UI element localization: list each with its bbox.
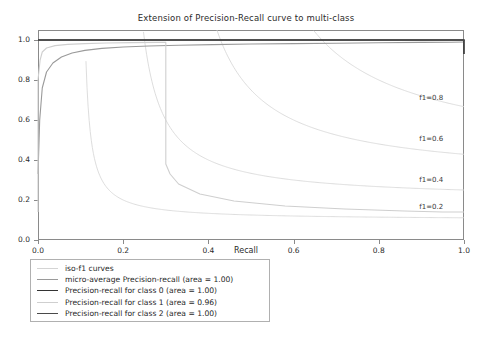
x-tick-label: 0.2 — [103, 246, 143, 255]
iso-f1-label: f1=0.6 — [419, 135, 443, 143]
legend-line-swatch — [37, 279, 58, 280]
x-tick-mark — [123, 240, 124, 244]
x-tick-label: 1.0 — [444, 246, 484, 255]
y-tick-label: 1.0 — [4, 35, 30, 44]
plot-curves — [38, 30, 464, 240]
legend-line-swatch — [37, 268, 58, 269]
legend-item[interactable]: Precision-recall for class 2 (area = 1.0… — [36, 308, 264, 319]
x-tick-mark — [208, 240, 209, 244]
iso-f1-curve — [86, 61, 464, 218]
iso-f1-label: f1=0.4 — [419, 176, 443, 184]
plot-area — [38, 30, 464, 240]
legend-label: Precision-recall for class 2 (area = 1.0… — [65, 308, 217, 319]
x-tick-mark — [38, 240, 39, 244]
x-tick-label: 0.6 — [274, 246, 314, 255]
page-title: Extension of Precision-Recall curve to m… — [0, 13, 492, 23]
series-curve — [38, 40, 464, 41]
iso-f1-curve — [143, 32, 464, 190]
legend-line-swatch — [37, 302, 58, 303]
matplotlib-figure: Extension of Precision-Recall curve to m… — [0, 0, 492, 340]
legend-label: micro-average Precision-recall (area = 1… — [65, 274, 233, 285]
legend-item[interactable]: micro-average Precision-recall (area = 1… — [36, 274, 264, 285]
legend-label: Precision-recall for class 0 (area = 1.0… — [65, 285, 217, 296]
y-tick-label: 0.6 — [4, 115, 30, 124]
x-tick-mark — [294, 240, 295, 244]
y-tick-label: 0.0 — [4, 235, 30, 244]
y-tick-label: 0.2 — [4, 195, 30, 204]
x-tick-label: 0.0 — [18, 246, 58, 255]
legend-item[interactable]: Precision-recall for class 0 (area = 1.0… — [36, 285, 264, 296]
y-tick-label: 0.4 — [4, 155, 30, 164]
legend-line-swatch — [37, 290, 58, 291]
x-tick-mark — [464, 240, 465, 244]
chart-legend[interactable]: iso-f1 curvesmicro-average Precision-rec… — [30, 259, 270, 322]
series-curve — [38, 42, 464, 212]
legend-item[interactable]: Precision-recall for class 1 (area = 0.9… — [36, 297, 264, 308]
series-curve — [38, 42, 464, 174]
x-axis-label: Recall — [0, 246, 492, 255]
iso-f1-label: f1=0.8 — [419, 94, 443, 102]
x-tick-label: 0.8 — [359, 246, 399, 255]
y-tick-label: 0.8 — [4, 75, 30, 84]
legend-line-swatch — [37, 313, 58, 314]
legend-label: iso-f1 curves — [65, 263, 114, 274]
legend-label: Precision-recall for class 1 (area = 0.9… — [65, 297, 217, 308]
legend-item[interactable]: iso-f1 curves — [36, 263, 264, 274]
x-tick-mark — [379, 240, 380, 244]
x-tick-label: 0.4 — [188, 246, 228, 255]
iso-f1-label: f1=0.2 — [419, 203, 443, 211]
